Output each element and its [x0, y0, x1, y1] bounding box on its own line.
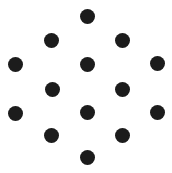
dot-marker	[115, 82, 130, 97]
dot-marker	[150, 56, 165, 71]
dot-marker	[8, 106, 23, 121]
dot-marker	[150, 105, 165, 120]
dot-marker	[80, 9, 95, 24]
dot-marker	[44, 33, 59, 48]
dot-marker	[115, 33, 130, 48]
dot-marker	[115, 128, 130, 143]
dot-marker	[80, 105, 95, 120]
dot-marker	[8, 57, 23, 72]
dot-marker	[80, 150, 95, 165]
dot-marker	[80, 57, 95, 72]
dot-pattern-canvas	[0, 0, 172, 173]
dot-marker	[44, 128, 59, 143]
dot-marker	[45, 82, 60, 97]
